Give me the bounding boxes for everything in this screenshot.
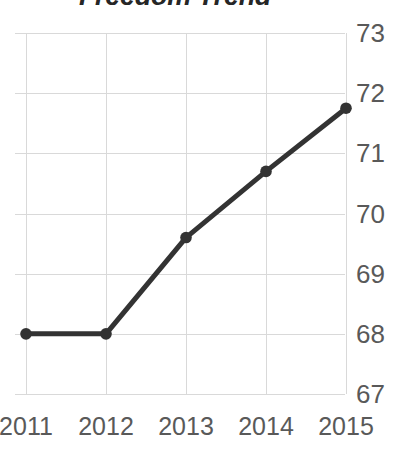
data-point-2011 [20, 328, 32, 340]
freedom-trend-chart: Freedom Trend 73727170696867 20112012201… [0, 0, 404, 457]
y-tick-label-73: 73 [356, 20, 396, 46]
data-point-2013 [180, 232, 192, 244]
data-point-2014 [260, 166, 272, 178]
x-tick-label-2015: 2015 [306, 414, 386, 439]
gridline-y-67 [15, 394, 345, 395]
y-tick-label-68: 68 [356, 321, 396, 347]
y-tick-label-69: 69 [356, 261, 396, 287]
x-tick-label-2014: 2014 [226, 414, 306, 439]
x-tick-label-2011: 2011 [0, 414, 66, 439]
x-tick-label-2012: 2012 [66, 414, 146, 439]
y-tick-label-70: 70 [356, 201, 396, 227]
data-point-2015 [340, 102, 352, 114]
x-tick-label-2013: 2013 [146, 414, 226, 439]
y-tick-label-71: 71 [356, 140, 396, 166]
series-polyline [26, 108, 346, 334]
data-point-2012 [100, 328, 112, 340]
plot-area [15, 33, 345, 394]
y-tick-label-67: 67 [356, 381, 396, 407]
series-markers [20, 102, 352, 339]
gridline-x-2015 [346, 33, 347, 394]
chart-title: Freedom Trend [0, 0, 350, 12]
series-line-freedom-score [15, 33, 345, 394]
y-tick-label-72: 72 [356, 80, 396, 106]
